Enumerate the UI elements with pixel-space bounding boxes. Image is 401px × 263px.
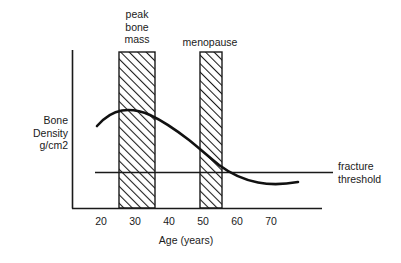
x-tick-label-50: 50 [190, 215, 216, 227]
band-menopause [200, 52, 222, 208]
x-tick-label-30: 30 [122, 215, 148, 227]
band-peak-bone-mass [119, 52, 155, 208]
menopause-label: menopause [172, 36, 248, 49]
x-tick-label-60: 60 [224, 215, 250, 227]
x-tick-label-40: 40 [156, 215, 182, 227]
fracture-threshold-label: fracture threshold [338, 160, 400, 185]
peak-bone-mass-label: peak bone mass [107, 8, 167, 46]
bone-density-chart: Bone Density g/cm2 Age (years) peak bone… [0, 0, 401, 263]
x-tick-label-20: 20 [88, 215, 114, 227]
x-axis-label: Age (years) [126, 234, 246, 247]
x-tick-label-70: 70 [258, 215, 284, 227]
y-axis-label: Bone Density g/cm2 [6, 114, 68, 152]
